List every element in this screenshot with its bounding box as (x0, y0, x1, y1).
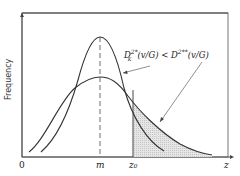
arrowhead-wide-icon (160, 117, 164, 122)
ann-left-arg: (v/G) (137, 50, 158, 60)
distribution-annotation: D2*K(v/G) < D2**(v/G) (124, 48, 209, 62)
ann-right-arg: (v/G) (188, 50, 209, 60)
x-tick-threshold: z₀ (129, 161, 137, 170)
y-axis-label: Frequency (4, 59, 13, 100)
annotation-arrow-wide (160, 62, 202, 122)
y-axis-arrow-icon (20, 13, 24, 17)
x-tick-mean: m (96, 161, 105, 170)
plot-frame (22, 13, 228, 157)
ann-relation: < (159, 50, 172, 60)
wide-distribution-curve (29, 77, 212, 155)
ann-right-sup: 2** (178, 48, 188, 55)
x-tick-axis-end: z (224, 161, 229, 170)
ann-right-term: D (171, 50, 178, 60)
arrowhead-narrow-icon (123, 71, 128, 75)
shaded-tail-region (133, 104, 212, 157)
x-tick-origin: 0 (19, 161, 25, 170)
x-axis-arrow-icon (230, 155, 234, 159)
diagram (0, 0, 240, 176)
ann-left-sub: K (128, 56, 132, 62)
